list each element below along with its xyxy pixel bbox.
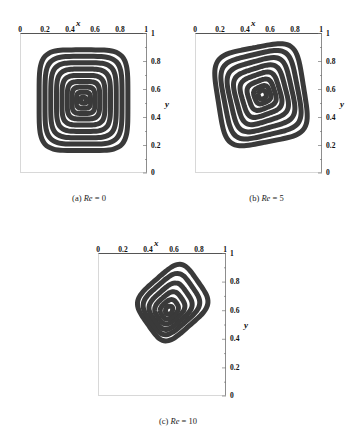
panel-b-contour-lines bbox=[196, 34, 321, 172]
panel-a-y-axis-label: y bbox=[165, 100, 169, 109]
panel-c-x-axis-label: x bbox=[154, 239, 159, 248]
panel-b-plot-area bbox=[195, 33, 322, 173]
panel-c-y-tick-4: 0.2 bbox=[230, 364, 239, 372]
panel-b-y-tick-0: 1 bbox=[326, 30, 330, 38]
panel-a-caption: (a) Re = 0 bbox=[0, 194, 178, 203]
panel-c-y-axis-label: y bbox=[244, 321, 248, 330]
panel-a-y-tick-1: 0.8 bbox=[151, 58, 160, 66]
panel-c-plot-area bbox=[98, 253, 226, 396]
panel-a-caption-symbol: Re bbox=[84, 193, 93, 203]
panel-a-y-tick-0: 1 bbox=[151, 30, 155, 38]
panel-b-caption-value: = 5 bbox=[272, 193, 283, 203]
panel-a-y-tick-5: 0 bbox=[151, 169, 155, 177]
panel-b-y-tick-5: 0 bbox=[326, 169, 330, 177]
panel-a-x-axis-label: x bbox=[76, 19, 81, 28]
panel-c-contour-lines bbox=[99, 254, 225, 395]
panel-b-y-tick-1: 0.8 bbox=[326, 58, 335, 66]
panel-c-y-tick-0: 1 bbox=[230, 250, 234, 258]
panel-c-y-tick-1: 0.8 bbox=[230, 278, 239, 286]
panel-b-caption-prefix: (b) bbox=[249, 193, 259, 203]
panel-c: x 0 0.2 0.4 0.6 0.8 1 bbox=[88, 222, 268, 442]
panel-b: x 0 0.2 0.4 0.6 0.8 1 bbox=[178, 0, 355, 215]
panel-a-caption-prefix: (a) bbox=[72, 193, 81, 203]
panel-c-caption-value: = 10 bbox=[182, 416, 197, 426]
contour-level-9 bbox=[81, 97, 87, 103]
panel-b-x-axis-label: x bbox=[251, 19, 256, 28]
panel-b-y-tick-3: 0.4 bbox=[326, 114, 335, 122]
panel-b-caption-symbol: Re bbox=[261, 193, 270, 203]
panel-a: x 0 0.2 0.4 0.6 0.8 1 bbox=[0, 0, 178, 215]
panel-c-caption: (c) Re = 10 bbox=[88, 417, 268, 426]
panel-c-y-tick-2: 0.6 bbox=[230, 307, 239, 315]
panel-a-y-tick-4: 0.2 bbox=[151, 142, 160, 150]
panel-c-y-tick-3: 0.4 bbox=[230, 335, 239, 343]
panel-b-caption: (b) Re = 5 bbox=[178, 194, 355, 203]
contour-figure: x 0 0.2 0.4 0.6 0.8 1 bbox=[0, 0, 355, 446]
contour-level-8 bbox=[258, 90, 266, 99]
panel-c-caption-prefix: (c) bbox=[159, 416, 168, 426]
panel-a-plot-area bbox=[20, 33, 147, 173]
panel-a-caption-value: = 0 bbox=[95, 193, 106, 203]
panel-a-contour-lines bbox=[21, 34, 146, 172]
panel-b-y-tick-2: 0.6 bbox=[326, 86, 335, 94]
panel-c-y-tick-5: 0 bbox=[230, 392, 234, 400]
panel-b-y-axis-label: y bbox=[340, 100, 344, 109]
panel-b-y-tick-4: 0.2 bbox=[326, 142, 335, 150]
contour-level-6 bbox=[165, 306, 172, 314]
panel-a-y-tick-2: 0.6 bbox=[151, 86, 160, 94]
panel-a-y-tick-3: 0.4 bbox=[151, 114, 160, 122]
panel-c-caption-symbol: Re bbox=[171, 416, 180, 426]
